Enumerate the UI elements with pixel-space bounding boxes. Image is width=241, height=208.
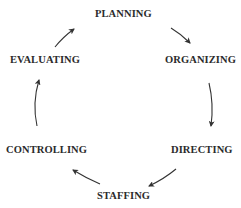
management-cycle-diagram: PLANNING ORGANIZING DIRECTING STAFFING C… [0, 0, 241, 208]
arrow-staffing-to-controlling-icon [73, 170, 100, 184]
arrow-directing-to-staffing-icon [149, 169, 176, 186]
arrow-evaluating-to-planning-icon [55, 29, 74, 47]
arrow-planning-to-organizing-icon [171, 28, 190, 43]
arrow-controlling-to-evaluating-icon [35, 80, 39, 126]
arrows-layer [0, 0, 241, 208]
arrow-organizing-to-directing-icon [209, 83, 212, 126]
